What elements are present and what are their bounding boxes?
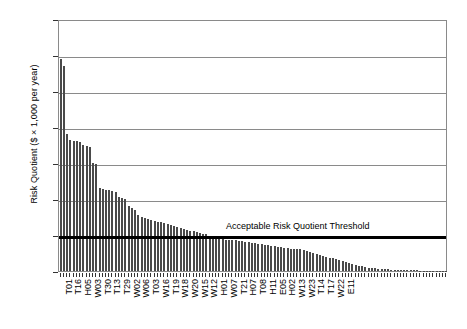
x-tick-mark xyxy=(400,273,401,277)
x-tick-mark xyxy=(111,273,112,277)
x-tick-mark xyxy=(264,273,265,277)
x-tick-mark xyxy=(99,273,100,277)
x-tick-label: H05 xyxy=(83,279,93,296)
x-tick-label: W20 xyxy=(190,279,200,298)
bar xyxy=(73,141,75,272)
x-tick-mark xyxy=(180,273,181,277)
x-tick-mark xyxy=(270,273,271,277)
bar xyxy=(338,260,340,271)
bar xyxy=(329,258,331,272)
x-tick-mark xyxy=(218,273,219,277)
x-tick-mark xyxy=(141,273,142,277)
x-tick-mark xyxy=(287,273,288,277)
bar xyxy=(95,164,97,271)
x-tick-mark xyxy=(102,273,103,277)
x-tick-mark xyxy=(124,273,125,277)
x-tick-mark xyxy=(290,273,291,277)
bar xyxy=(66,134,68,271)
risk-quotient-bar-chart: Risk Quotient ($ × 1,000 per year) 02040… xyxy=(0,0,467,329)
bar xyxy=(170,225,172,271)
bar xyxy=(209,236,211,271)
x-tick-mark xyxy=(381,273,382,277)
bar xyxy=(154,221,156,271)
x-tick-mark xyxy=(436,273,437,277)
x-tick-mark xyxy=(445,273,446,277)
bar xyxy=(264,245,266,271)
x-tick-mark xyxy=(86,273,87,277)
bar xyxy=(287,248,289,271)
x-tick-label: T14 xyxy=(316,279,326,295)
bar xyxy=(371,268,373,271)
x-tick-mark xyxy=(128,273,129,277)
bar xyxy=(167,224,169,271)
x-tick-mark xyxy=(228,273,229,277)
bar xyxy=(82,145,84,271)
x-tick-mark xyxy=(150,273,151,277)
bar xyxy=(332,258,334,271)
x-tick-mark xyxy=(403,273,404,277)
x-tick-mark xyxy=(303,273,304,277)
bar xyxy=(348,263,350,271)
threshold-label: Acceptable Risk Quotient Threshold xyxy=(226,221,369,231)
bar xyxy=(99,188,101,271)
bar xyxy=(160,222,162,271)
bar xyxy=(202,234,204,271)
bar xyxy=(228,240,230,272)
bar xyxy=(157,222,159,272)
bar xyxy=(231,240,233,271)
bar xyxy=(322,256,324,271)
bar xyxy=(124,199,126,271)
x-tick-mark xyxy=(154,273,155,277)
threshold-line xyxy=(59,236,446,239)
x-tick-mark xyxy=(309,273,310,277)
bar xyxy=(296,249,298,271)
x-tick-mark xyxy=(377,273,378,277)
x-tick-mark xyxy=(410,273,411,277)
x-tick-mark xyxy=(222,273,223,277)
x-tick-mark xyxy=(312,273,313,277)
bar xyxy=(419,271,421,272)
x-tick-mark xyxy=(364,273,365,277)
bar xyxy=(277,247,279,271)
x-tick-mark xyxy=(329,273,330,277)
bar xyxy=(176,227,178,271)
x-tick-mark xyxy=(108,273,109,277)
x-tick-mark xyxy=(442,273,443,277)
x-tick-mark xyxy=(267,273,268,277)
bar xyxy=(309,252,311,271)
x-tick-label: H01 xyxy=(219,279,229,296)
bar xyxy=(374,268,376,271)
bar xyxy=(442,271,444,272)
bar xyxy=(436,271,438,272)
bar xyxy=(218,239,220,271)
x-tick-mark xyxy=(316,273,317,277)
bar xyxy=(102,189,104,271)
x-tick-label: H11 xyxy=(268,279,278,295)
x-tick-mark xyxy=(69,273,70,277)
x-tick-mark xyxy=(244,273,245,277)
x-tick-mark xyxy=(397,273,398,277)
x-tick-mark xyxy=(189,273,190,277)
bar xyxy=(403,270,405,271)
x-tick-label: T08 xyxy=(258,279,268,295)
bar xyxy=(439,271,441,272)
bar xyxy=(248,242,250,271)
bar xyxy=(128,206,130,271)
x-tick-mark xyxy=(66,273,67,277)
bar xyxy=(60,59,62,271)
bar xyxy=(316,254,318,271)
x-tick-mark xyxy=(248,273,249,277)
bar xyxy=(180,228,182,271)
x-tick-mark xyxy=(73,273,74,277)
bar xyxy=(147,219,149,271)
x-tick-mark xyxy=(241,273,242,277)
bar xyxy=(400,270,402,271)
x-tick-mark xyxy=(277,273,278,277)
bar xyxy=(63,66,65,271)
x-tick-mark xyxy=(351,273,352,277)
bar xyxy=(274,246,276,271)
bar xyxy=(413,270,415,271)
bar xyxy=(115,192,117,271)
bar xyxy=(163,223,165,271)
x-tick-mark xyxy=(429,273,430,277)
